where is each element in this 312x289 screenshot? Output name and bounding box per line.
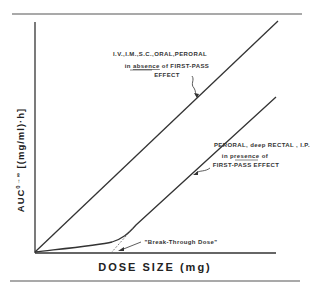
bottom-annotation-line3: FIRST-PASS EFFECT xyxy=(213,162,280,168)
x-axis-title: DOSE SIZE (mg) xyxy=(98,261,212,273)
series-first-pass xyxy=(35,97,276,252)
y-axis-title: AUC0→∞ [(mg/ml)·h] xyxy=(15,108,26,212)
arrow-head-icon xyxy=(118,247,124,251)
bottom-annotation-line2: in presence of xyxy=(222,153,269,159)
diagram-canvas: I.V.,I.M.,S.C.,ORAL,PERORAL in absence o… xyxy=(0,0,312,289)
svg-text:AUC0→∞ [(mg/ml)·h]: AUC0→∞ [(mg/ml)·h] xyxy=(15,108,26,212)
bottom-annotation-line1: PERORAL, deep RECTAL , I.P. xyxy=(214,142,310,148)
top-annotation-line1: I.V.,I.M.,S.C.,ORAL,PERORAL xyxy=(113,51,207,57)
breakthrough-label: "Break-Through Dose" xyxy=(144,239,217,245)
top-annotation-line3: EFFECT xyxy=(154,72,180,78)
top-annotation-line2: in absence of FIRST-PASS xyxy=(125,63,210,69)
